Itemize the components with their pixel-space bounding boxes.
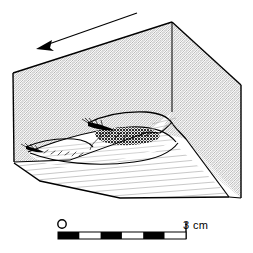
scale-max-label: 3 cm: [183, 220, 208, 231]
scale-segment: [143, 232, 164, 239]
figure-root: 3 cm: [0, 0, 253, 253]
scale-zero-marker: [58, 220, 66, 228]
block-diagram-svg: [0, 0, 253, 253]
scale-bar: [58, 220, 186, 239]
scale-segment: [58, 232, 79, 239]
scale-segment: [101, 232, 122, 239]
scale-bar-track: [58, 232, 186, 239]
